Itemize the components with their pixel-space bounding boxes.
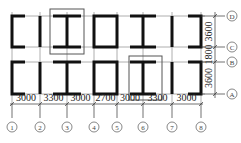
vertical-axis-labels: 1 2 3 4 5 6 7 8 bbox=[7, 122, 206, 132]
dim-C-B: 1800 bbox=[203, 45, 214, 65]
dim-5-6: 3000 bbox=[120, 92, 140, 103]
axis-4-label: 4 bbox=[92, 124, 96, 132]
axis-6-label: 6 bbox=[141, 124, 145, 132]
axis-A-label: A bbox=[229, 91, 234, 99]
dim-7-8: 3000 bbox=[177, 92, 197, 103]
dim-D-C: 3600 bbox=[203, 22, 214, 42]
axis-7-label: 7 bbox=[170, 124, 174, 132]
axis-5-label: 5 bbox=[115, 124, 119, 132]
dim-2-3: 3300 bbox=[44, 92, 64, 103]
axis-1-label: 1 bbox=[10, 124, 14, 132]
floor-plan-diagram: 3000 3300 3000 2700 3000 3300 3000 3600 … bbox=[0, 0, 241, 143]
walls-upper-row bbox=[12, 16, 201, 47]
dim-3-4: 3000 bbox=[71, 92, 91, 103]
walls-lower-row bbox=[12, 62, 201, 94]
axis-D-label: D bbox=[229, 13, 234, 21]
right-dimension: 3600 1800 3600 bbox=[201, 12, 225, 98]
dim-B-A: 3600 bbox=[203, 68, 214, 88]
axis-3-label: 3 bbox=[65, 124, 69, 132]
bottom-dimension: 3000 3300 3000 2700 3000 3300 3000 bbox=[10, 92, 203, 118]
axis-C-label: C bbox=[230, 44, 235, 52]
axis-8-label: 8 bbox=[199, 124, 203, 132]
dim-1-2: 3000 bbox=[16, 92, 36, 103]
axis-B-label: B bbox=[230, 59, 235, 67]
dim-4-5: 2700 bbox=[96, 92, 116, 103]
axis-2-label: 2 bbox=[38, 124, 42, 132]
dim-6-7: 3300 bbox=[148, 92, 168, 103]
horizontal-axis-labels: D C B A bbox=[227, 11, 237, 99]
